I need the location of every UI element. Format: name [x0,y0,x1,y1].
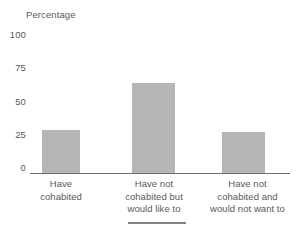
y-axis-tick-25: 25 [0,129,26,140]
bar-have-cohabited [42,130,80,173]
bar-chart: Percentage 100 75 50 25 0 Have cohabited… [0,0,298,232]
x-axis-label-line: would like to [108,203,200,216]
bar-not-cohabited-would-like-to [132,83,175,173]
x-axis-label-not-cohabited-would-not-want-to: Have not cohabited and would not want to [197,178,298,216]
x-axis-label-line: Have not [197,178,298,191]
y-axis-tick-50: 50 [0,96,26,107]
y-axis-tick-100: 100 [0,29,26,40]
y-axis-tick-75: 75 [0,62,26,73]
x-axis-label-line: would not want to [197,203,298,216]
x-axis-label-line: cohabited [22,191,100,204]
x-axis-label-line: Have not [108,178,200,191]
x-axis-label-line: cohabited but [108,191,200,204]
bar-not-cohabited-would-not-want-to [222,132,265,173]
x-axis-label-not-cohabited-would-like-to: Have not cohabited but would like to [108,178,200,216]
footer-rule [128,222,186,224]
x-axis-label-line: Have [22,178,100,191]
y-axis-title: Percentage [26,9,76,20]
plot-area [30,20,290,173]
y-axis-tick-0: 0 [0,162,26,173]
x-axis-label-have-cohabited: Have cohabited [22,178,100,203]
x-axis-label-line: cohabited and [197,191,298,204]
x-axis-line [30,173,290,174]
